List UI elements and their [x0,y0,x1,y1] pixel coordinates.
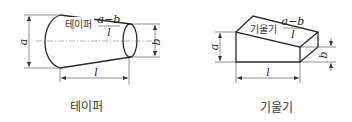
taper-formula-numerator: a−b [98,13,121,26]
taper-caption: 테이퍼 [70,100,103,114]
taper-formula-denominator: l [107,26,111,39]
slope-figure: a b l 기울기 a−b l 기울기 [208,15,336,115]
slope-formula-denominator: l [291,28,295,41]
taper-b-label: b [150,38,163,45]
slope-l-label: l [266,66,270,79]
taper-l-label: l [94,66,98,79]
taper-small-end [123,24,137,57]
slope-a-label: a [208,44,221,51]
slope-formula-numerator: a−b [282,15,305,28]
diagram-canvas: a b l 테이퍼 a−b l 테이퍼 a [0,0,352,122]
taper-figure: a b l 테이퍼 a−b l 테이퍼 [17,13,163,114]
slope-b-label: b [317,51,330,58]
slope-caption: 기울기 [260,101,293,115]
taper-ratio-label: 테이퍼 [65,19,92,30]
slope-top-face [236,16,318,47]
taper-a-label: a [17,39,30,46]
slope-ratio-label: 기울기 [250,24,277,35]
taper-large-end [45,15,60,68]
